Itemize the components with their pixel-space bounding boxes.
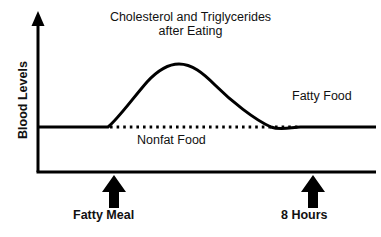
x-tick-label-8-hours: 8 Hours [281,208,328,222]
figure-container: Cholesterol and Triglycerides after Eati… [0,0,381,237]
chart-title: Cholesterol and Triglycerides after Eati… [0,10,381,38]
y-axis-label: Blood Levels [16,48,30,152]
chart-title-line-2: after Eating [0,24,381,38]
series-label-nonfat-food: Nonfat Food [137,133,206,147]
x-tick-label-fatty-meal: Fatty Meal [73,208,134,222]
x-marker-arrow-fatty-meal [102,175,126,208]
series-label-fatty-food: Fatty Food [292,89,352,103]
chart-title-line-1: Cholesterol and Triglycerides [0,10,381,24]
up-arrow-icon [102,175,126,208]
x-marker-arrow-8-hours [301,175,325,208]
up-arrow-icon [301,175,325,208]
